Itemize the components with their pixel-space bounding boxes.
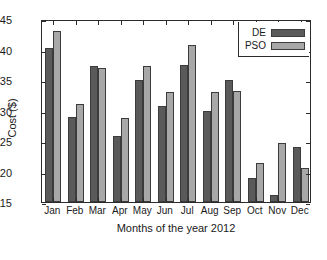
x-tick-label-may: May <box>133 205 152 216</box>
y-tick-label-125: 125 <box>0 136 12 148</box>
bar-group <box>65 21 88 202</box>
y-tick-label-145: 145 <box>0 14 12 26</box>
y-tick <box>42 204 46 205</box>
bar-pso-jun <box>166 92 174 202</box>
bar-de-may <box>135 80 143 202</box>
bar-group <box>155 21 178 202</box>
y-tick <box>42 174 46 175</box>
x-tick-label-sep: Sep <box>223 205 241 216</box>
bar-pso-apr <box>121 118 129 202</box>
y-tick-right <box>306 143 310 144</box>
bar-pso-aug <box>211 92 219 202</box>
bar-group <box>42 21 65 202</box>
bar-de-jul <box>180 65 188 202</box>
x-tick-label-jun: Jun <box>157 205 173 216</box>
x-tick <box>278 198 279 202</box>
y-tick-label-115: 115 <box>0 197 12 209</box>
y-tick-label-135: 135 <box>0 75 12 87</box>
bar-de-jan <box>45 48 53 202</box>
bar-de-feb <box>68 117 76 202</box>
x-tick-top <box>188 21 189 25</box>
bar-de-aug <box>203 111 211 202</box>
x-tick <box>143 198 144 202</box>
legend: DE PSO <box>238 22 309 57</box>
y-tick-right <box>306 113 310 114</box>
x-tick-top <box>98 21 99 25</box>
x-tick-top <box>211 21 212 25</box>
x-tick-top <box>143 21 144 25</box>
y-tick-label-140: 140 <box>0 45 12 57</box>
x-tick <box>98 198 99 202</box>
bar-de-sep <box>225 80 233 202</box>
plot-area: DE PSO <box>41 20 311 203</box>
x-tick-label-aug: Aug <box>201 205 219 216</box>
bar-de-oct <box>248 178 256 202</box>
bar-group <box>200 21 223 202</box>
x-tick-label-mar: Mar <box>89 205 106 216</box>
x-tick <box>166 198 167 202</box>
x-tick-top <box>76 21 77 25</box>
x-tick-label-feb: Feb <box>66 205 83 216</box>
x-tick-label-apr: Apr <box>112 205 128 216</box>
x-tick-label-jan: Jan <box>44 205 60 216</box>
bar-de-dec <box>293 147 301 202</box>
x-tick-top <box>53 21 54 25</box>
x-tick-label-nov: Nov <box>268 205 286 216</box>
bar-pso-nov <box>278 143 286 202</box>
bar-pso-jul <box>188 45 196 202</box>
x-tick <box>256 198 257 202</box>
bar-group <box>87 21 110 202</box>
y-tick <box>42 143 46 144</box>
y-tick-right <box>306 82 310 83</box>
x-tick-label-oct: Oct <box>247 205 263 216</box>
chart-figure: Cost ($) Months of the year 2012 1151201… <box>0 0 327 260</box>
x-tick-top <box>233 21 234 25</box>
legend-swatch-de <box>271 29 305 37</box>
bar-de-jun <box>158 106 166 202</box>
bar-de-mar <box>90 66 98 202</box>
bar-group <box>177 21 200 202</box>
y-tick <box>42 52 46 53</box>
y-tick <box>42 113 46 114</box>
x-tick <box>121 198 122 202</box>
y-tick-right <box>306 204 310 205</box>
bar-pso-jan <box>53 31 61 202</box>
y-tick-right <box>306 174 310 175</box>
bar-de-nov <box>270 195 278 202</box>
x-tick-top <box>121 21 122 25</box>
bar-pso-feb <box>76 104 84 202</box>
x-tick <box>53 198 54 202</box>
bar-pso-oct <box>256 163 264 202</box>
x-tick <box>233 198 234 202</box>
y-tick <box>42 21 46 22</box>
bar-pso-may <box>143 66 151 202</box>
x-tick-top <box>166 21 167 25</box>
legend-item-de: DE <box>245 26 305 39</box>
bar-group <box>132 21 155 202</box>
y-tick-label-130: 130 <box>0 106 12 118</box>
bar-de-apr <box>113 136 121 202</box>
bar-pso-sep <box>233 91 241 202</box>
x-tick <box>76 198 77 202</box>
x-tick-label-dec: Dec <box>291 205 309 216</box>
x-tick <box>188 198 189 202</box>
x-tick <box>211 198 212 202</box>
legend-label-pso: PSO <box>245 40 266 51</box>
legend-swatch-pso <box>271 42 305 50</box>
legend-item-pso: PSO <box>245 39 305 52</box>
y-tick-label-120: 120 <box>0 167 12 179</box>
legend-label-de: DE <box>252 27 266 38</box>
bar-pso-mar <box>98 68 106 202</box>
x-axis-title: Months of the year 2012 <box>41 222 311 234</box>
bar-group <box>110 21 133 202</box>
y-tick <box>42 82 46 83</box>
x-tick <box>301 198 302 202</box>
x-tick-label-jul: Jul <box>181 205 194 216</box>
